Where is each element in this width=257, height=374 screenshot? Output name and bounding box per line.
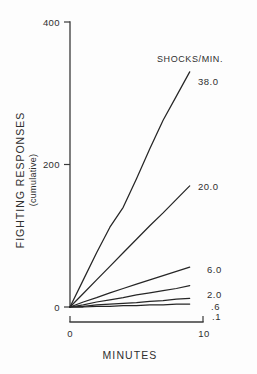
legend-group: SHOCKS/MIN. 38.0 20.0 6.0 2.0 .6 .1	[157, 54, 223, 322]
series-label-6: 6.0	[207, 264, 222, 275]
fighting-responses-chart: 400 200 0 0 10 SHOCKS/MIN. 38.0 20.0 6.0…	[0, 0, 257, 374]
curve-38	[70, 72, 190, 307]
y-axis-title: FIGHTING RESPONSES	[14, 112, 26, 248]
series-label-0-1: .1	[212, 311, 221, 322]
x-axis-title: MINUTES	[103, 349, 158, 361]
y-axis-subtitle: (cumulative)	[28, 154, 38, 207]
y-tick-label-0: 0	[54, 302, 60, 313]
y-tick-label-200: 200	[43, 159, 60, 170]
curve-6	[70, 267, 190, 307]
axis-titles-group: MINUTES FIGHTING RESPONSES (cumulative)	[14, 112, 157, 361]
x-tick-label-0: 0	[67, 328, 73, 339]
series-label-38: 38.0	[198, 76, 219, 87]
curves-group	[70, 72, 190, 307]
y-tick-label-400: 400	[43, 17, 60, 28]
figure-page: 400 200 0 0 10 SHOCKS/MIN. 38.0 20.0 6.0…	[0, 0, 257, 374]
series-label-20: 20.0	[198, 181, 219, 192]
series-label-2: 2.0	[207, 289, 222, 300]
y-axis-group: 400 200 0	[43, 17, 70, 313]
x-axis-group: 0 10	[67, 316, 210, 339]
legend-title: SHOCKS/MIN.	[157, 54, 223, 64]
x-tick-label-10: 10	[198, 328, 209, 339]
